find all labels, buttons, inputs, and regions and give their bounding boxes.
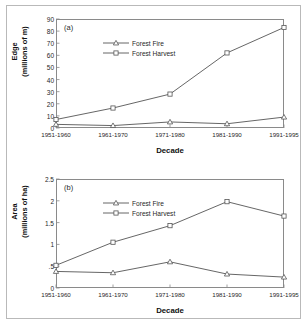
xtick-label: 1981-1990 [212, 131, 242, 138]
panel-b-xaxis-title: Decade [56, 306, 284, 315]
panel-b-series-plot [56, 179, 284, 288]
panel-b: (b) 0.511.522.5 1951-19601961-19701971-1… [0, 162, 308, 324]
legend-square-marker-icon [103, 48, 129, 58]
legend-item: Forest Fire [103, 38, 175, 48]
legend-label: Forest Harvest [132, 50, 175, 57]
xtick-label: 1951-1960 [41, 291, 71, 298]
legend-label: Forest Harvest [132, 210, 175, 217]
legend-item: Forest Harvest [103, 48, 175, 58]
legend-triangle-marker-icon [103, 198, 129, 208]
panel-a-yaxis-title-line2: (millions of m) [19, 9, 29, 95]
xtick-label: 1991-1995 [269, 131, 299, 138]
xtick-label: 1971-1980 [155, 131, 185, 138]
panel-a: (a) 0102030405060708090 1951-19601961-19… [0, 2, 308, 164]
xtick-label: 1951-1960 [41, 131, 71, 138]
legend-item: Forest Fire [103, 198, 175, 208]
panel-a-xaxis-title: Decade [56, 146, 284, 155]
panel-a-yaxis-title: Edge (millions of m) [10, 9, 29, 95]
panel-a-yaxis-title-line1: Edge [10, 9, 20, 95]
legend-label: Forest Fire [132, 40, 164, 47]
xtick-label: 1991-1995 [269, 291, 299, 298]
panel-a-series-plot [56, 19, 284, 128]
panel-b-legend: Forest FireForest Harvest [103, 198, 175, 218]
panel-b-yaxis-title-line2: (millions of ha) [19, 169, 29, 255]
legend-triangle-marker-icon [103, 38, 129, 48]
xtick-label: 1981-1990 [212, 291, 242, 298]
panel-b-yaxis-title-line1: Area [10, 169, 20, 255]
panel-a-legend: Forest FireForest Harvest [103, 38, 175, 58]
figure-container: (a) 0102030405060708090 1951-19601961-19… [0, 0, 308, 325]
xtick-label: 1961-1970 [98, 131, 128, 138]
legend-item: Forest Harvest [103, 208, 175, 218]
legend-label: Forest Fire [132, 200, 164, 207]
xtick-label: 1961-1970 [98, 291, 128, 298]
xtick-label: 1971-1980 [155, 291, 185, 298]
panel-b-yaxis-title: Area (millions of ha) [10, 169, 29, 255]
legend-square-marker-icon [103, 208, 129, 218]
